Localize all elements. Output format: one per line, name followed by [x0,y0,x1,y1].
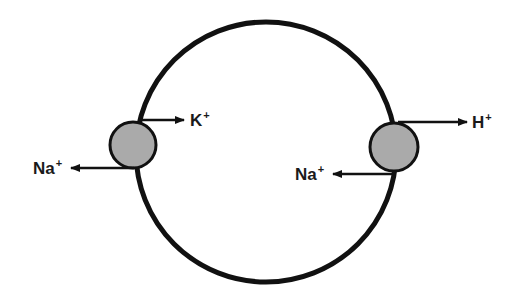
h-ion-charge: + [485,111,491,123]
na-left-ion-symbol: Na [33,159,55,178]
na-right-ion-label: Na+ [295,166,324,183]
cell-membrane [136,22,396,282]
h-ion-symbol: H [472,113,484,132]
membrane-diagram [0,0,520,298]
right-transporter [333,122,467,174]
k-ion-label: K+ [190,112,210,129]
k-ion-charge: + [203,109,209,121]
k-ion-symbol: K [190,111,202,130]
right-transporter-protein [370,123,418,171]
na-left-ion-charge: + [56,157,62,169]
na-right-ion-symbol: Na [295,165,317,184]
h-ion-label: H+ [472,114,492,131]
na-right-ion-charge: + [318,163,324,175]
left-transporter-protein [110,122,156,168]
na-left-ion-label: Na+ [33,160,62,177]
left-transporter [71,120,184,168]
